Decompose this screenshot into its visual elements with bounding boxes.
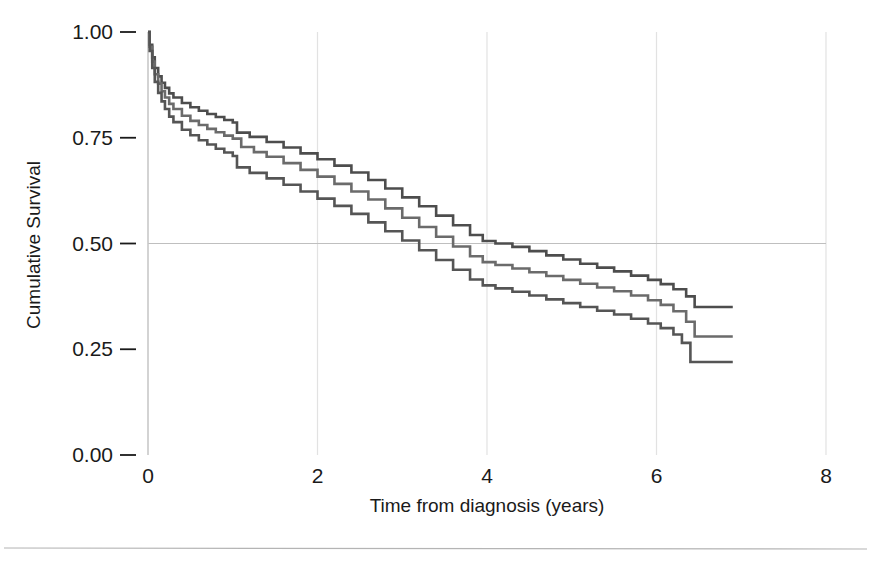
cumulative-survival-chart: 0.000.250.500.751.00 02468 Time from dia… (0, 0, 871, 565)
y-axis-title: Cumulative Survival (23, 161, 44, 329)
y-tick-label-0.50: 0.50 (72, 232, 113, 255)
x-axis-title: Time from diagnosis (years) (370, 495, 605, 516)
x-tick-label-4: 4 (481, 464, 493, 487)
x-tick-label-2: 2 (312, 464, 324, 487)
x-tick-label-6: 6 (651, 464, 663, 487)
survival-chart-figure: 0.000.250.500.751.00 02468 Time from dia… (0, 0, 871, 565)
y-tick-label-0.75: 0.75 (72, 126, 113, 149)
x-tick-label-8: 8 (820, 464, 832, 487)
y-tick-label-0.25: 0.25 (72, 337, 113, 360)
y-tick-label-1.00: 1.00 (72, 20, 113, 43)
y-tick-label-0.00: 0.00 (72, 443, 113, 466)
chart-background (0, 0, 871, 565)
x-tick-label-0: 0 (142, 464, 154, 487)
